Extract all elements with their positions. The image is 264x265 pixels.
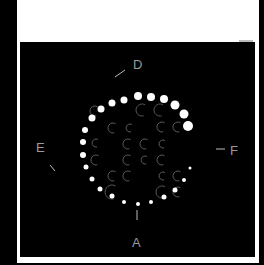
bright-dot (189, 167, 192, 170)
label-e-marker: E (36, 140, 55, 171)
bright-dot (171, 101, 180, 110)
crescent (159, 172, 165, 180)
bright-dot (98, 106, 105, 113)
crescent (141, 156, 147, 164)
bright-dot (121, 97, 128, 104)
bright-dot (122, 200, 126, 204)
bright-dot (149, 200, 153, 204)
bright-dot (109, 100, 116, 107)
bright-dot (182, 178, 186, 182)
crescent (157, 155, 165, 165)
bright-dot (82, 127, 88, 133)
label-left: E (36, 140, 45, 155)
crescent (157, 122, 165, 132)
bright-dot (134, 92, 142, 100)
bright-dot (98, 187, 103, 192)
bright-dot (180, 110, 189, 119)
bright-dot (136, 202, 140, 206)
crescent (123, 139, 131, 149)
crescent (90, 106, 98, 116)
bright-dot (110, 194, 115, 199)
crescent (123, 155, 131, 165)
crescent (173, 122, 181, 132)
label-right: F (230, 143, 238, 158)
crescent (140, 139, 148, 149)
crescent (92, 139, 98, 147)
bright-dot (80, 152, 86, 158)
label-top: D (133, 57, 142, 72)
bright-dot (147, 93, 155, 101)
label-f-marker: F (216, 143, 238, 158)
crescent (126, 124, 132, 132)
crescent (123, 171, 131, 181)
label-bottom: A (132, 235, 141, 250)
bright-dot (183, 121, 193, 131)
bright-dot (80, 139, 86, 145)
crescent (108, 123, 116, 133)
crescent (159, 140, 165, 148)
crescent (136, 104, 145, 116)
label-d-marker: D (115, 57, 142, 77)
bright-dot (160, 95, 168, 103)
bright-dot (90, 177, 95, 182)
dot-pattern-figure: D E F A (0, 0, 264, 265)
crescent (154, 104, 163, 116)
crescent (173, 171, 181, 181)
bright-dot (89, 115, 96, 122)
bright-dot (84, 165, 89, 170)
crescent-grid (90, 104, 181, 199)
crescent (91, 155, 99, 165)
crescent (108, 171, 116, 181)
label-a-marker: A (132, 210, 141, 250)
bright-dot (162, 195, 167, 200)
bright-dot (173, 188, 178, 193)
